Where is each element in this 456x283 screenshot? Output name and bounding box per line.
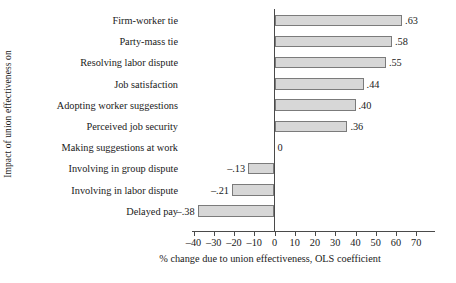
value-label: .55	[389, 52, 449, 73]
category-label: Making suggestions at work	[16, 137, 178, 158]
bar-row: Party-mass tie.58	[0, 31, 456, 52]
zero-axis-line	[274, 9, 275, 232]
bar	[275, 121, 348, 132]
value-label: –.13	[185, 158, 248, 179]
category-label: Job satisfaction	[16, 74, 178, 95]
category-label: Involving in group dispute	[16, 158, 178, 179]
bar	[275, 57, 386, 68]
value-label: .36	[350, 116, 410, 137]
value-label: .58	[395, 31, 455, 52]
plot-area: Firm-worker tie.63Party-mass tie.58Resol…	[0, 0, 456, 228]
bar-row: Firm-worker tie.63	[0, 10, 456, 31]
bar-row: Perceived job security.36	[0, 116, 456, 137]
x-axis-caption-text: % change due to union effectiveness, OLS…	[159, 253, 381, 264]
value-label: .40	[359, 95, 419, 116]
bar-row: Adopting worker suggestions.40	[0, 95, 456, 116]
bar	[248, 163, 274, 174]
value-label: 0	[278, 137, 338, 158]
value-label: –.21	[169, 180, 232, 201]
bar-row: Job satisfaction.44	[0, 74, 456, 95]
category-label: Involving in labor dispute	[16, 180, 178, 201]
bar-row: Involving in group dispute–.13	[0, 158, 456, 179]
bar-row: Resolving labor dispute.55	[0, 52, 456, 73]
value-label: –.38	[135, 201, 198, 222]
category-label: Adopting worker suggestions	[16, 95, 178, 116]
bar-chart-figure: Impact of union effectiveness on Firm-wo…	[0, 0, 456, 283]
category-label: Firm-worker tie	[16, 10, 178, 31]
bar	[232, 184, 275, 195]
bar	[198, 205, 275, 216]
bar-row: Delayed pay–.38	[0, 201, 456, 222]
x-tick-label: 70	[401, 236, 431, 250]
bar	[275, 36, 392, 47]
value-label: .44	[367, 74, 427, 95]
category-label: Party-mass tie	[16, 31, 178, 52]
bar	[275, 15, 403, 26]
x-axis-line	[192, 231, 435, 232]
x-axis-caption: % change due to union effectiveness, OLS…	[0, 253, 456, 264]
bar-row: Involving in labor dispute–.21	[0, 180, 456, 201]
category-label: Resolving labor dispute	[16, 52, 178, 73]
bar	[275, 99, 356, 110]
bar-row: Making suggestions at work0	[0, 137, 456, 158]
bar	[275, 78, 364, 89]
value-label: .63	[405, 10, 456, 31]
category-label: Perceived job security	[16, 116, 178, 137]
